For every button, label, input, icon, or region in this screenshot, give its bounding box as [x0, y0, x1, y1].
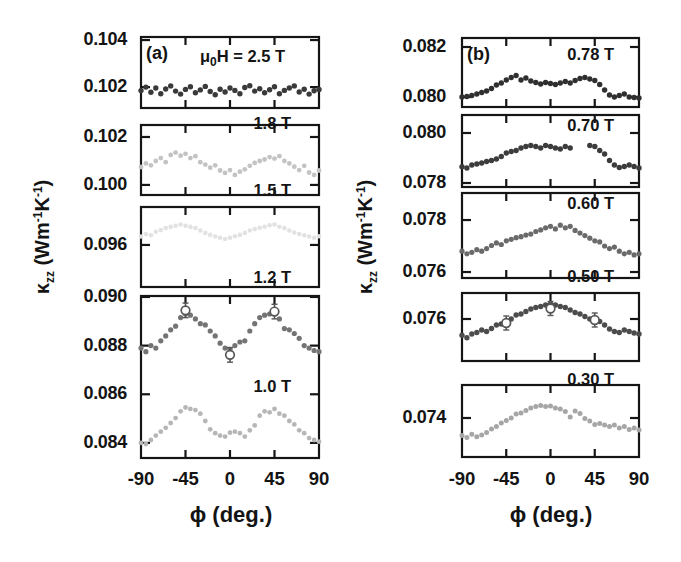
- data-point: [602, 243, 607, 248]
- data-point: [612, 162, 617, 167]
- data-point: [203, 231, 208, 236]
- data-point: [612, 329, 617, 334]
- data-point: [153, 159, 158, 164]
- data-point: [553, 82, 558, 87]
- data-point: [139, 441, 144, 446]
- data-point: [233, 429, 238, 434]
- data-point: [494, 424, 499, 429]
- data-point: [282, 159, 287, 164]
- data-point: [173, 150, 178, 155]
- data-point: [297, 428, 302, 433]
- data-point: [622, 424, 627, 429]
- data-point: [183, 151, 188, 156]
- data-point: [312, 348, 317, 353]
- data-point: [592, 238, 597, 243]
- data-point: [247, 428, 252, 433]
- data-point: [252, 161, 257, 166]
- data-point: [627, 250, 632, 255]
- data-point: [297, 232, 302, 237]
- data-point: [297, 336, 302, 341]
- data-point: [568, 80, 573, 85]
- data-point: [277, 154, 282, 159]
- data-point: [617, 249, 622, 254]
- data-point: [312, 438, 317, 443]
- data-point: [489, 86, 494, 91]
- data-point: [627, 329, 632, 334]
- data-point: [543, 225, 548, 230]
- data-point: [509, 149, 514, 154]
- data-point: [247, 328, 252, 333]
- field-label-0-78-t: 0.78 T: [0, 45, 614, 64]
- data-point: [484, 329, 489, 334]
- data-point: [509, 416, 514, 421]
- series-0-78-t: [459, 73, 641, 101]
- data-point: [489, 243, 494, 248]
- data-point: [158, 429, 163, 434]
- data-point: [223, 346, 228, 351]
- data-point: [523, 408, 528, 413]
- data-point: [504, 418, 509, 423]
- data-point: [484, 159, 489, 164]
- data-point: [636, 95, 641, 100]
- data-point: [469, 331, 474, 336]
- data-point: [464, 165, 469, 170]
- data-point: [602, 423, 607, 428]
- data-point: [548, 81, 553, 86]
- data-point: [563, 225, 568, 230]
- panel-b-segment-4: [460, 385, 642, 457]
- data-point: [213, 163, 218, 168]
- data-point: [528, 143, 533, 148]
- data-point: [489, 158, 494, 163]
- data-point: [568, 145, 573, 150]
- data-point: [553, 145, 558, 150]
- data-point: [597, 82, 602, 87]
- data-point: [617, 330, 622, 335]
- data-point: [578, 411, 583, 416]
- data-point: [568, 224, 573, 229]
- data-point: [509, 237, 514, 242]
- highlight-open-circle: [546, 304, 555, 313]
- panel-b: [459, 38, 641, 457]
- data-point: [218, 236, 223, 241]
- y-tick-label: 0.076: [0, 308, 446, 329]
- data-point: [238, 233, 243, 238]
- data-point: [607, 424, 612, 429]
- data-point: [553, 226, 558, 231]
- data-point: [622, 164, 627, 169]
- data-point: [474, 91, 479, 96]
- y-tick-label: 0.096: [0, 234, 127, 255]
- data-point: [528, 306, 533, 311]
- series-0-30-t: [460, 403, 642, 440]
- data-point: [149, 163, 154, 168]
- data-point: [203, 162, 208, 167]
- data-point: [558, 223, 563, 228]
- data-point: [592, 422, 597, 427]
- data-point: [632, 252, 637, 257]
- data-point: [607, 326, 612, 331]
- data-point: [148, 343, 153, 348]
- data-point: [213, 431, 218, 436]
- data-point: [514, 412, 519, 417]
- data-point: [509, 75, 514, 80]
- data-point: [459, 249, 464, 254]
- data-point: [577, 76, 582, 81]
- data-point: [469, 162, 474, 167]
- data-point: [627, 162, 632, 167]
- data-point: [484, 430, 489, 435]
- data-point: [563, 79, 568, 84]
- highlight-open-circle: [502, 319, 511, 328]
- data-point: [607, 92, 612, 97]
- data-point: [558, 304, 563, 309]
- y-tick-label: 0.090: [0, 286, 127, 307]
- data-point: [622, 251, 627, 256]
- data-point: [464, 251, 469, 256]
- data-point: [617, 93, 622, 98]
- data-point: [528, 78, 533, 83]
- data-point: [523, 233, 528, 238]
- data-point: [627, 94, 632, 99]
- data-point: [479, 327, 484, 332]
- data-point: [223, 434, 228, 439]
- data-point: [193, 154, 198, 159]
- data-point: [592, 78, 597, 83]
- data-point: [519, 411, 524, 416]
